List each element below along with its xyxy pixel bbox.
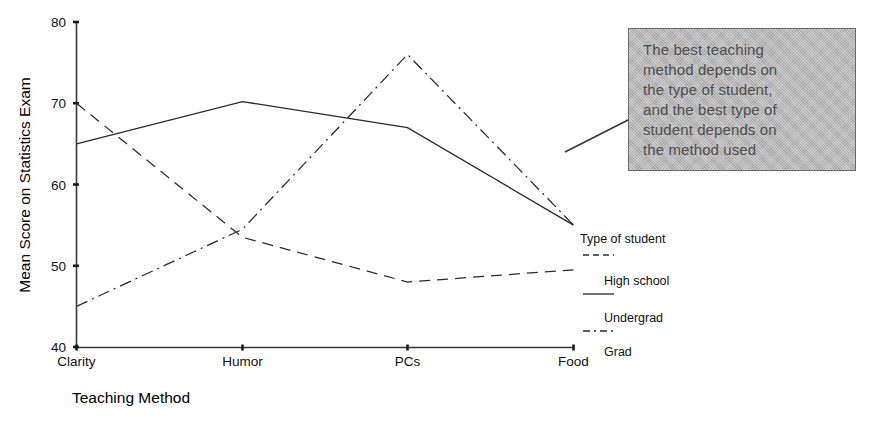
annotation-callout-box: The best teaching method depends on the … xyxy=(628,28,856,171)
x-tick-label-clarity: Clarity xyxy=(57,354,96,369)
y-tick-label-70: 70 xyxy=(51,96,66,111)
annotation-leader-line xyxy=(565,118,632,152)
y-tick-label-40: 40 xyxy=(51,340,66,355)
y-tick-label-60: 60 xyxy=(51,178,66,193)
legend-title: Type of student xyxy=(580,232,666,246)
annotation-text: The best teaching method depends on the … xyxy=(643,40,843,160)
x-tick-label-pcs: PCs xyxy=(395,354,421,369)
legend-label-grad: Grad xyxy=(604,345,632,359)
chart-figure: 80 70 60 50 40 Clarity Humor PCs Food Me… xyxy=(0,0,880,429)
y-axis-title: Mean Score on Statistics Exam xyxy=(16,77,33,292)
series-line-high-school xyxy=(77,103,574,282)
x-tick-label-food: Food xyxy=(558,354,589,369)
series-line-grad xyxy=(77,55,574,307)
y-tick-label-80: 80 xyxy=(51,15,66,30)
x-tick-label-humor: Humor xyxy=(222,354,263,369)
legend-label-undergrad: Undergrad xyxy=(604,311,663,325)
x-axis-title: Teaching Method xyxy=(72,389,190,406)
legend-label-high-school: High school xyxy=(604,274,669,288)
y-tick-label-50: 50 xyxy=(51,259,66,274)
